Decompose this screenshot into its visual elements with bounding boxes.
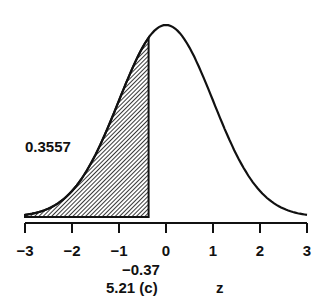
tick-label: −2 (63, 243, 80, 258)
tick-label: 2 (256, 243, 264, 258)
axis-label-z: z (216, 280, 224, 295)
tick-label: −3 (16, 243, 33, 258)
area-label: 0.3557 (25, 139, 71, 154)
tick-label: 3 (303, 243, 311, 258)
x-axis (25, 223, 307, 233)
cutoff-label: −0.37 (122, 262, 160, 277)
tick-label: −1 (110, 243, 127, 258)
tick-label: 1 (209, 243, 217, 258)
figure-caption: 5.21 (c) (106, 280, 158, 295)
tick-label: 0 (162, 243, 170, 258)
normal-curve (25, 25, 307, 215)
shaded-tail-area (25, 38, 149, 217)
